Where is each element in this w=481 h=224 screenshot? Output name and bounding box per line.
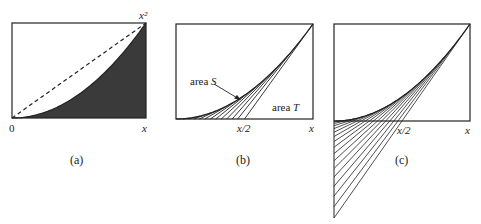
panel-c-graph [334, 24, 470, 218]
panel-a-caption: (a) [70, 154, 83, 166]
panel-a-origin-label: 0 [9, 123, 15, 134]
panel-c-half-x-label: x/2 [397, 125, 410, 136]
panel-c-x-label: x [465, 125, 470, 136]
panel-b-half-x-label: x/2 [237, 123, 250, 134]
panel-a-x-squared-label: x² [139, 10, 147, 21]
area-s-pointer [214, 84, 239, 99]
arrowhead-icon [234, 95, 241, 100]
panel-c-caption: (c) [395, 154, 408, 166]
area-t-var: T [293, 101, 299, 113]
area-s-prefix: area [190, 75, 211, 87]
area-t-prefix: area [272, 101, 293, 113]
panel-b-x-label: x [309, 123, 314, 134]
panel-a-x-label: x [142, 123, 147, 134]
area-t-label: area T [272, 102, 299, 113]
panel-b-caption: (b) [236, 154, 250, 166]
area-s-label: area S [190, 76, 217, 87]
area-s-var: S [211, 75, 217, 87]
figure-canvas [0, 0, 481, 224]
panel-a-graph [12, 23, 146, 118]
